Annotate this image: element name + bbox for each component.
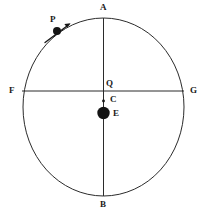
label-c: C [110,95,117,104]
label-f: F [9,86,15,95]
label-p: P [50,15,56,24]
label-q: Q [106,79,113,88]
label-g: G [190,86,197,95]
label-e: E [113,109,119,118]
label-b: B [100,200,106,209]
point-marker-p [53,27,61,35]
diagram-canvas [0,0,203,214]
orbit-diagram-figure: A B F G P Q C E [0,0,203,214]
point-marker-e [97,107,109,119]
label-a: A [100,3,107,12]
point-marker-c [102,100,105,103]
